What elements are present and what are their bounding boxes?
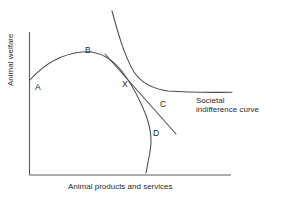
point-label-b: B — [85, 46, 91, 56]
indifference-curve-annotation: Societal indifference curve — [196, 96, 259, 114]
annotation-line-1: Societal — [196, 96, 259, 105]
economics-diagram: Animal welfare Animal products and servi… — [0, 0, 281, 200]
point-label-x: X — [122, 80, 128, 90]
x-axis-label: Animal products and services — [68, 182, 173, 191]
annotation-line-2: indifference curve — [196, 105, 259, 114]
point-label-a: A — [35, 83, 41, 93]
y-axis-label: Animal welfare — [6, 0, 15, 86]
societal-indifference-curve — [112, 11, 232, 92]
point-label-d: D — [153, 129, 159, 139]
point-label-c: C — [160, 100, 166, 110]
tangent-line-at-x — [105, 54, 176, 134]
